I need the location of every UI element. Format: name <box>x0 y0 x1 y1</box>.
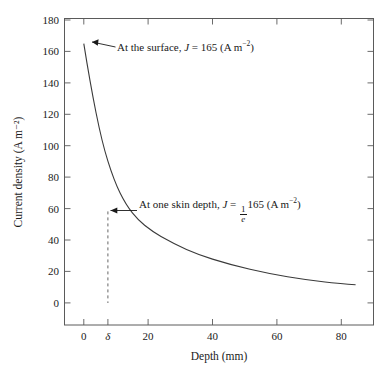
x-tick-label-20: 20 <box>143 330 155 342</box>
y-tick-label-160: 160 <box>43 45 60 57</box>
current-density-curve <box>84 44 356 285</box>
x-tick-label-40: 40 <box>207 330 219 342</box>
x-tick-label-delta: δ <box>105 330 111 342</box>
annotation-skin-depth-exponent: −2 <box>289 196 297 205</box>
annotation-skin-depth-equals: = <box>227 198 239 210</box>
x-axis-title: Depth (mm) <box>191 350 248 363</box>
y-axis-title: Current density (A m⁻²) <box>12 116 25 227</box>
x-axis-ticks <box>84 319 342 325</box>
x-axis-ticks-top <box>84 19 342 25</box>
current-density-chart: 180 160 140 120 100 80 60 40 20 0 0 δ 20… <box>0 0 385 384</box>
y-tick-label-60: 60 <box>48 203 60 215</box>
y-tick-label-0: 0 <box>54 297 60 309</box>
skin-depth-annotation-leader <box>111 208 138 214</box>
annotation-surface-end: ) <box>250 41 254 53</box>
annotation-skin-depth-prefix: At one skin depth, <box>139 198 222 210</box>
figure-container: 180 160 140 120 100 80 60 40 20 0 0 δ 20… <box>0 0 385 384</box>
annotation-skin-depth: At one skin depth, J = 1e165 (A m−2) <box>139 197 301 224</box>
fraction-one-over-e: 1e <box>240 205 247 224</box>
y-axis-ticks <box>65 20 71 303</box>
y-tick-label-40: 40 <box>48 234 60 246</box>
y-tick-label-120: 120 <box>43 108 60 120</box>
annotation-skin-depth-end: ) <box>297 198 301 210</box>
y-tick-label-20: 20 <box>48 265 60 277</box>
fraction-denominator: e <box>240 215 246 224</box>
y-tick-label-140: 140 <box>43 77 60 89</box>
y-axis-ticks-right <box>368 20 374 303</box>
annotation-surface-suffix: = 165 (A m <box>189 41 242 53</box>
annotation-surface-prefix: At the surface, <box>117 41 184 53</box>
surface-annotation-leader <box>92 39 116 47</box>
fraction-numerator: 1 <box>240 205 247 214</box>
x-tick-label-0: 0 <box>81 330 87 342</box>
annotation-skin-depth-suffix: 165 (A m <box>248 198 290 210</box>
annotation-surface: At the surface, J = 165 (A m−2) <box>117 40 254 53</box>
y-tick-label-100: 100 <box>43 140 60 152</box>
x-tick-label-80: 80 <box>336 330 348 342</box>
y-tick-label-80: 80 <box>48 171 60 183</box>
y-tick-label-180: 180 <box>43 14 60 26</box>
x-tick-label-60: 60 <box>271 330 283 342</box>
